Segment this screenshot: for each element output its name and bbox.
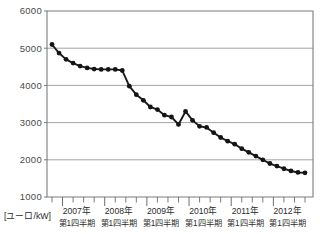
x-axis-year-label: 2011年 [232,205,259,216]
y-axis-tick-label: 5000 [20,43,42,54]
chart-container: 100020003000400050006000 2007年第1四半期2008年… [0,0,321,234]
data-point-marker [162,113,167,118]
data-point-marker [282,166,287,171]
data-point-marker [197,124,202,129]
x-axis-ticks [52,197,305,206]
plot-background [47,11,313,197]
data-point-marker [296,170,301,175]
x-axis-year-label: 2007年 [63,205,91,216]
data-point-marker [134,92,139,97]
data-point-marker [113,67,118,72]
data-point-marker [274,164,279,169]
y-axis-tick-label: 4000 [20,80,42,91]
data-point-marker [204,125,209,130]
data-point-marker [190,118,195,123]
data-point-marker [239,146,244,151]
y-axis-unit-label: [ユーロ/kW] [4,211,51,221]
data-point-marker [289,169,294,174]
data-point-marker [211,130,216,135]
y-axis-tick-label: 2000 [20,154,42,165]
data-point-marker [78,64,83,69]
data-point-marker [183,109,188,114]
data-point-marker [120,68,125,73]
data-point-marker [176,122,181,127]
x-axis-quarter-label: 第1四半期 [227,218,264,228]
data-point-marker [141,98,146,103]
x-axis-quarter-label: 第1四半期 [101,218,138,228]
x-axis-quarter-label: 第1四半期 [185,218,222,228]
data-point-marker [71,61,76,66]
data-point-marker [127,84,132,89]
data-point-marker [218,135,223,140]
data-point-marker [85,66,90,71]
x-axis-group-labels: 2007年第1四半期2008年第1四半期2009年第1四半期2010年第1四半期… [59,205,306,228]
data-point-marker [303,170,308,175]
x-axis-year-label: 2010年 [189,205,217,216]
y-axis-tick-label: 1000 [20,191,42,202]
x-axis-quarter-label: 第1四半期 [269,218,306,228]
data-point-marker [99,67,104,72]
data-point-marker [50,42,55,47]
data-point-marker [169,115,174,120]
y-axis-labels: 100020003000400050006000 [20,5,47,202]
data-point-marker [148,105,153,110]
y-axis-tick-label: 6000 [20,5,42,16]
x-axis-quarter-label: 第1四半期 [59,218,96,228]
data-point-marker [57,51,62,56]
data-point-marker [267,161,272,166]
data-point-marker [64,57,69,62]
data-point-marker [225,139,230,144]
data-point-marker [232,142,237,147]
data-point-marker [253,154,258,159]
data-point-marker [260,157,265,162]
data-point-marker [92,67,97,72]
x-axis-year-label: 2008年 [105,205,133,216]
y-axis-tick-label: 3000 [20,117,42,128]
x-axis-quarter-label: 第1四半期 [143,218,180,228]
data-point-marker [155,107,160,112]
x-axis-year-label: 2012年 [274,205,302,216]
data-point-marker [106,67,111,72]
x-axis-year-label: 2009年 [147,205,175,216]
data-point-marker [246,150,251,155]
line-chart: 100020003000400050006000 2007年第1四半期2008年… [0,0,321,234]
